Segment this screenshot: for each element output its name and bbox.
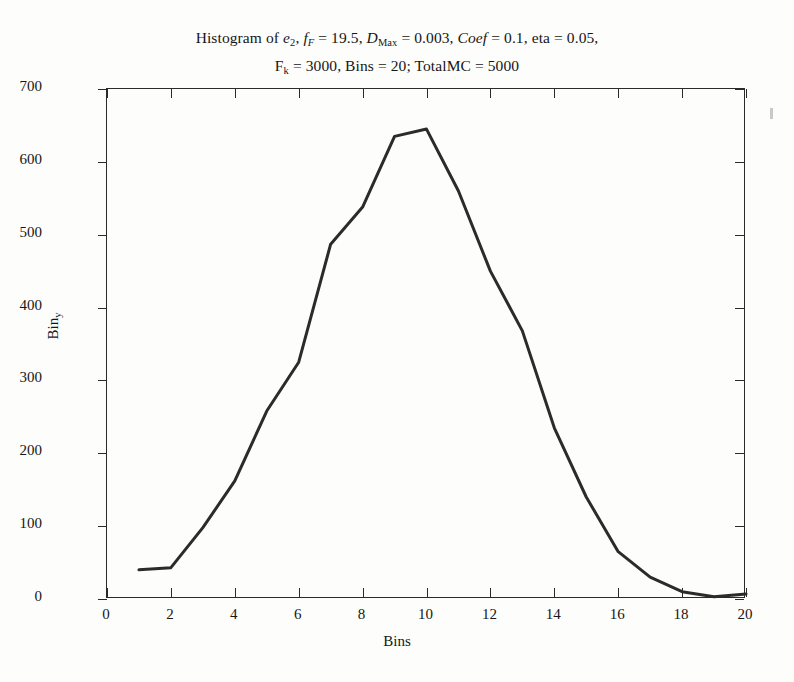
title-var-e: e (283, 29, 290, 46)
y-axis-tick-right (735, 380, 744, 381)
y-axis-tick (98, 89, 107, 90)
y-axis-tick-right (735, 235, 744, 236)
x-axis-tick-label-text: 6 (294, 606, 302, 623)
title-var-coef: Coef (458, 29, 488, 46)
y-axis-tick-right (735, 526, 744, 527)
x-axis-tick (363, 588, 364, 597)
x-axis-tick-label-text: 14 (546, 606, 561, 623)
x-axis-tick-top (746, 89, 747, 98)
y-axis-tick (98, 526, 107, 527)
title-text-prefix: Histogram of (196, 29, 283, 46)
x-axis-tick-label: 0 (106, 606, 114, 623)
x-axis-tick-label-text: 4 (230, 606, 238, 623)
x-axis-tick (171, 588, 172, 597)
x-axis-tick-label: 2 (170, 606, 178, 623)
scan-artifact (770, 108, 773, 119)
title-line2-rest: = 3000, Bins = 20; TotalMC = 5000 (289, 57, 519, 74)
x-axis-tick-top (490, 89, 491, 98)
chart-title-line-1: Histogram of e2, fF = 19.5, DMax = 0.003… (0, 26, 794, 54)
x-axis-tick (554, 588, 555, 597)
x-axis-tick (490, 588, 491, 597)
y-axis-tick-right (735, 89, 744, 90)
x-axis-tick-label-text: 10 (418, 606, 433, 623)
histogram-data-line (139, 129, 746, 597)
title-eq-3: = 0.1, eta = 0.05, (487, 29, 598, 46)
x-axis-tick (427, 588, 428, 597)
x-axis-tick (682, 588, 683, 597)
x-axis-tick (235, 588, 236, 597)
x-axis-tick-top (171, 89, 172, 98)
y-axis-tick (98, 308, 107, 309)
y-axis-tick-right (735, 308, 744, 309)
plot-area (106, 88, 745, 598)
x-axis-tick-label-text: 16 (610, 606, 625, 623)
y-axis-tick (98, 599, 107, 600)
y-axis-tick-label-text: 100 (20, 515, 43, 532)
chart-title-line-2: Fk = 3000, Bins = 20; TotalMC = 5000 (0, 54, 794, 82)
x-axis-tick-label-text: 2 (166, 606, 174, 623)
y-axis-tick (98, 380, 107, 381)
title-var-fk: F (275, 57, 284, 74)
x-axis-tick (618, 588, 619, 597)
title-eq-1: = 19.5, (314, 29, 366, 46)
y-axis-title-text: Bin (45, 318, 61, 340)
x-axis-tick-label-text: 20 (738, 606, 753, 623)
x-axis-tick-label: 16 (617, 606, 632, 623)
x-axis-title-text: Bins (383, 633, 411, 649)
x-axis-tick-label-text: 18 (674, 606, 689, 623)
y-axis-tick-right (735, 453, 744, 454)
y-axis-tick-label-text: 400 (20, 297, 43, 314)
title-sub-d: Max (378, 37, 398, 48)
y-axis-tick-label-text: 700 (20, 78, 43, 95)
x-axis-tick (746, 588, 747, 597)
y-axis-tick-label-text: 0 (35, 588, 43, 605)
x-axis-tick-top (107, 89, 108, 98)
x-axis-tick-label: 18 (681, 606, 696, 623)
y-axis-title: Biny (45, 266, 63, 386)
x-axis-tick-top (363, 89, 364, 98)
y-axis-tick-label-text: 200 (20, 442, 43, 459)
y-axis-tick-right (735, 599, 744, 600)
x-axis-title: Bins (0, 633, 794, 650)
data-line-svg (107, 89, 746, 599)
x-axis-tick-top (682, 89, 683, 98)
chart-title: Histogram of e2, fF = 19.5, DMax = 0.003… (0, 26, 794, 82)
x-axis-tick (107, 588, 108, 597)
x-axis-tick (299, 588, 300, 597)
x-axis-tick-label: 4 (234, 606, 242, 623)
y-axis-tick (98, 453, 107, 454)
x-axis-tick-label-text: 0 (102, 606, 110, 623)
x-axis-tick-top (618, 89, 619, 98)
y-axis-tick (98, 162, 107, 163)
y-axis-tick-right (735, 162, 744, 163)
x-axis-tick-label: 10 (426, 606, 441, 623)
histogram-figure: Histogram of e2, fF = 19.5, DMax = 0.003… (0, 0, 794, 682)
y-axis-title-subscript: y (52, 313, 63, 318)
y-axis-tick (98, 235, 107, 236)
x-axis-tick-label: 8 (362, 606, 370, 623)
title-eq-2: = 0.003, (397, 29, 457, 46)
x-axis-tick-label-text: 12 (482, 606, 497, 623)
x-axis-tick-label: 12 (489, 606, 504, 623)
x-axis-tick-label: 14 (553, 606, 568, 623)
x-axis-tick-top (427, 89, 428, 98)
x-axis-tick-label: 6 (298, 606, 306, 623)
x-axis-tick-label: 20 (745, 606, 760, 623)
title-var-d: D (367, 29, 378, 46)
y-axis-tick-label-text: 300 (20, 369, 43, 386)
x-axis-tick-top (299, 89, 300, 98)
y-axis-tick-label-text: 600 (20, 151, 43, 168)
y-axis-tick-label-text: 500 (20, 224, 43, 241)
x-axis-tick-top (235, 89, 236, 98)
x-axis-tick-label-text: 8 (358, 606, 366, 623)
x-axis-tick-top (554, 89, 555, 98)
